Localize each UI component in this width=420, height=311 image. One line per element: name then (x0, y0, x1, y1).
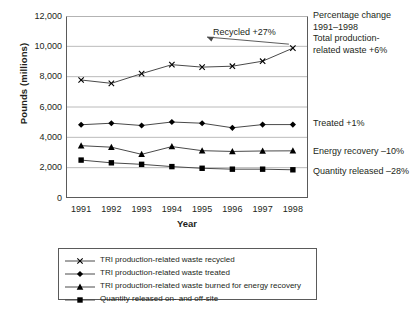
y-tick-label: 2,000 (20, 163, 62, 172)
legend-marker-triangle-icon (65, 279, 95, 291)
annotation-quantity-released: Quantity released –28% (313, 166, 409, 178)
plot-area (66, 16, 308, 198)
annotation-recycled: Recycled +27% (213, 27, 276, 37)
series-marker (199, 120, 205, 126)
legend-marker-x-cross-icon (65, 253, 95, 265)
series-marker (139, 162, 144, 167)
legend-marker-diamond-icon (65, 266, 95, 278)
legend-item-label: TRI production-related waste burned for … (100, 281, 301, 290)
y-tick-label: 10,000 (20, 42, 62, 51)
legend-item[interactable]: TRI production-related waste burned for … (65, 279, 316, 291)
annotation-treated: Treated +1% (313, 118, 364, 130)
annotation-header-line2: 1991–1998 (313, 22, 391, 34)
x-axis-title: Year (66, 218, 308, 229)
legend-item-label: TRI production-related waste treated (100, 268, 230, 277)
annotation-header-line4: related waste +6% (313, 45, 391, 57)
series-marker (169, 164, 174, 169)
x-tick-label: 1998 (273, 204, 313, 214)
series-marker (199, 166, 204, 171)
annotation-arrowhead (207, 37, 214, 42)
annotation-header-line1: Percentage change (313, 10, 391, 22)
series-marker (78, 157, 83, 162)
annotation-leader-line (207, 37, 289, 44)
series-marker (260, 166, 265, 171)
series-marker (78, 142, 85, 148)
series-marker (260, 121, 266, 127)
legend-item[interactable]: Quantity released on- and off-site (65, 292, 316, 304)
legend-item-label: Quantity released on- and off-site (100, 294, 218, 303)
series-marker (169, 119, 175, 125)
y-tick-label: 8,000 (20, 72, 62, 81)
chart-legend: TRI production-related waste recycledTRI… (58, 248, 317, 300)
x-axis-tick-labels: 19911992199319941995199619971998 (66, 202, 308, 216)
chart-figure: Pounds (millions) 12,00010,0008,0006,000… (0, 0, 420, 311)
series-line (81, 48, 293, 83)
series-marker (230, 166, 235, 171)
annotation-energy-recovery: Energy recovery –10% (313, 146, 404, 158)
series-marker (78, 122, 84, 128)
series-marker (290, 167, 295, 172)
legend-marker (77, 297, 82, 302)
series-marker (139, 122, 145, 128)
series-marker (108, 120, 114, 126)
legend-item[interactable]: TRI production-related waste treated (65, 266, 316, 278)
series-marker (109, 160, 114, 165)
legend-marker (77, 271, 83, 277)
y-tick-label: 4,000 (20, 133, 62, 142)
plot-svg (66, 16, 308, 198)
y-tick-label: 12,000 (20, 12, 62, 21)
legend-marker-square-icon (65, 292, 95, 304)
series-marker (139, 71, 144, 76)
legend-item-label: TRI production-related waste recycled (100, 255, 235, 264)
y-axis-tick-labels: 12,00010,0008,0006,0004,0002,0000 (18, 0, 62, 311)
series-marker (169, 143, 176, 149)
annotation-percentage-change-header: Percentage change 1991–1998 Total produc… (313, 10, 391, 56)
y-tick-label: 6,000 (20, 103, 62, 112)
legend-rows: TRI production-related waste recycledTRI… (59, 249, 316, 304)
series-marker (229, 125, 235, 131)
legend-item[interactable]: TRI production-related waste recycled (65, 253, 316, 265)
y-tick-label: 0 (20, 194, 62, 203)
annotation-header-line3: Total production- (313, 33, 391, 45)
series-marker (290, 121, 296, 127)
